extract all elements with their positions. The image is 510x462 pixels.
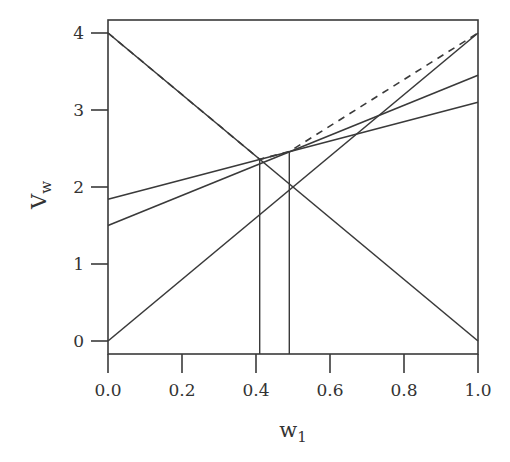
x-tick-label: 1.0 (464, 380, 491, 400)
y-tick-label: 1 (73, 254, 84, 274)
y-tick-label: 0 (73, 331, 84, 351)
y-axis-title: Vw (27, 181, 55, 210)
x-tick-label: 0.8 (390, 380, 417, 400)
upper-envelope (108, 33, 478, 159)
chart-canvas: 012340.00.20.40.60.81.0w1Vw (0, 0, 510, 462)
line-b (108, 75, 478, 225)
x-tick-label: 0.6 (316, 380, 343, 400)
y-tick-label: 3 (73, 100, 84, 120)
x-tick-label: 0.0 (94, 380, 121, 400)
x-axis-title: w1 (279, 418, 307, 446)
y-tick-label: 4 (73, 23, 84, 43)
y-tick-label: 2 (73, 177, 84, 197)
x-tick-label: 0.4 (242, 380, 269, 400)
x-tick-label: 0.2 (168, 380, 195, 400)
